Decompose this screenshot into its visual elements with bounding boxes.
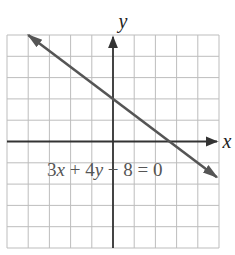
equation-label: 3x + 4y − 8 = 0	[47, 159, 163, 180]
graph: y x 3x + 4y − 8 = 0	[0, 0, 235, 255]
x-axis-label: x	[222, 130, 232, 152]
axes	[7, 37, 217, 248]
y-axis-label: y	[117, 10, 128, 33]
